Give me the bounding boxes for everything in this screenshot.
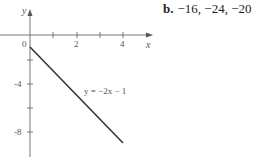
- x-axis-label: x: [145, 39, 151, 50]
- equation-annotation: y = −2x − 1: [84, 86, 126, 96]
- x-tick-label-2: 2: [74, 39, 79, 49]
- answer-label: b.: [163, 1, 173, 16]
- answer-values: −16, −24, −20: [177, 1, 251, 16]
- graph-svg: y x 0 2 4 -4 -8 y = −2x − 1: [0, 0, 160, 157]
- answer-b: b.−16, −24, −20: [163, 1, 251, 17]
- y-axis-label: y: [21, 5, 27, 16]
- y-tick-label-neg8: -8: [14, 127, 22, 137]
- y-tick-label-neg4: -4: [14, 79, 22, 89]
- y-axis-arrow-icon: [28, 9, 33, 16]
- x-tick-label-4: 4: [120, 39, 125, 49]
- line-graph: y x 0 2 4 -4 -8 y = −2x − 1: [0, 0, 160, 157]
- x-axis-arrow-icon: [146, 33, 153, 38]
- origin-label: 0: [22, 39, 27, 49]
